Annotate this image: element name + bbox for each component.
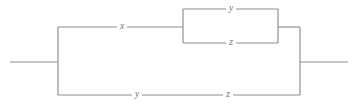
label-inner-bottom-z: z	[226, 38, 236, 48]
label-upper-x: x	[117, 22, 127, 32]
label-lower-z: z	[223, 90, 233, 100]
network-diagram: x y z y z	[0, 0, 358, 106]
label-inner-top-y: y	[226, 4, 236, 14]
label-lower-y: y	[132, 90, 142, 100]
network-wiring-svg	[0, 0, 358, 106]
